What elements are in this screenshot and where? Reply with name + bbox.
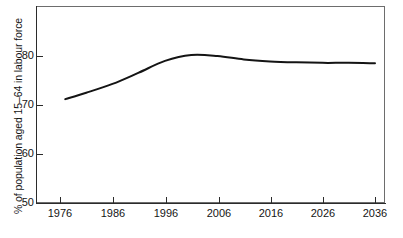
x-tick-label-2026: 2026 [303, 208, 343, 219]
y-tick-mark-50 [37, 203, 43, 204]
y-axis-tick-labels: 80 70 60 50 [10, 0, 34, 238]
x-tick-label-1996: 1996 [146, 208, 186, 219]
x-tick-mark-2016 [271, 197, 272, 203]
x-tick-label-1986: 1986 [93, 208, 133, 219]
y-tick-label-70: 70 [12, 99, 34, 110]
x-tick-mark-1976 [60, 197, 61, 203]
x-tick-label-2016: 2016 [251, 208, 291, 219]
y-tick-mark-60 [37, 154, 43, 155]
line-chart: % of population aged 15–64 in labour for… [0, 0, 403, 238]
x-tick-mark-2036 [375, 197, 376, 203]
y-tick-label-50: 50 [12, 197, 34, 208]
x-tick-label-2036: 2036 [355, 208, 395, 219]
x-tick-mark-1986 [113, 197, 114, 203]
x-tick-mark-1996 [166, 197, 167, 203]
x-tick-mark-2026 [323, 197, 324, 203]
x-tick-label-2006: 2006 [199, 208, 239, 219]
y-tick-mark-70 [37, 105, 43, 106]
y-tick-label-60: 60 [12, 148, 34, 159]
y-tick-label-80: 80 [12, 50, 34, 61]
x-tick-label-1976: 1976 [40, 208, 80, 219]
plot-area [36, 6, 385, 203]
y-tick-mark-80 [37, 56, 43, 57]
x-tick-mark-2006 [219, 197, 220, 203]
x-axis-spine [36, 203, 386, 204]
